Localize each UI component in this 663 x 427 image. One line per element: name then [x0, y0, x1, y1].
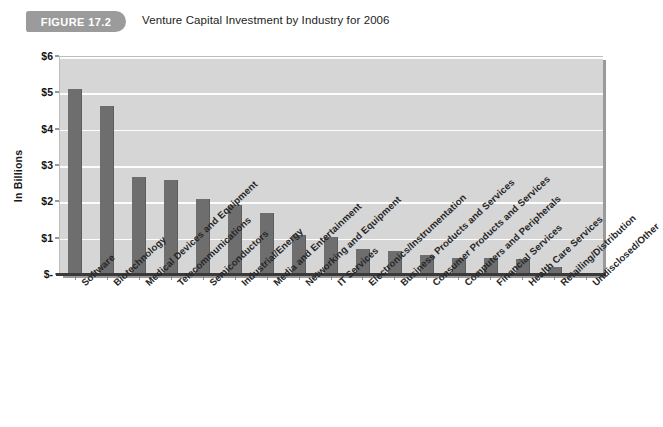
y-axis-tick-label: $- [44, 268, 53, 280]
y-axis-tick-labels: $-$1$2$3$4$5$6 [28, 56, 56, 274]
y-axis-tick-label: $4 [41, 123, 53, 135]
figure-title: Venture Capital Investment by Industry f… [142, 14, 390, 26]
y-axis-tick-label: $3 [41, 159, 53, 171]
y-axis-title: In Billions [12, 136, 24, 216]
bar [100, 106, 114, 274]
y-axis-tick-label: $1 [41, 232, 53, 244]
figure-header: FIGURE 17.2 Venture Capital Investment b… [0, 0, 663, 42]
figure-number-badge: FIGURE 17.2 [26, 11, 126, 32]
x-axis-category-labels: SoftwareBiotechnologyMedical Devices and… [0, 280, 663, 420]
bar-chart: In Billions $-$1$2$3$4$5$6 SoftwareBiote… [0, 42, 663, 427]
y-axis-tick-label: $5 [41, 86, 53, 98]
y-axis-tick-label: $2 [41, 195, 53, 207]
y-axis-tick-label: $6 [41, 50, 53, 62]
bar [68, 89, 82, 274]
bars-layer [59, 56, 602, 274]
